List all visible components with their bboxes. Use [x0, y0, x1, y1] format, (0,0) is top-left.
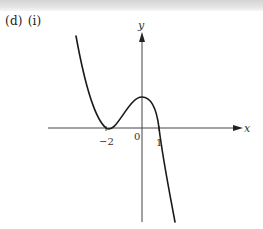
tick-label-minus-2: −2 — [99, 136, 114, 147]
x-axis-label: x — [244, 122, 251, 135]
x-axis-arrow-icon — [233, 125, 243, 131]
cubic-curve — [76, 36, 175, 222]
origin-label: 0 — [134, 131, 140, 142]
cubic-graph: x y −2 1 0 — [0, 0, 263, 229]
y-axis-arrow-icon — [139, 32, 145, 42]
y-axis-label: y — [137, 19, 145, 32]
